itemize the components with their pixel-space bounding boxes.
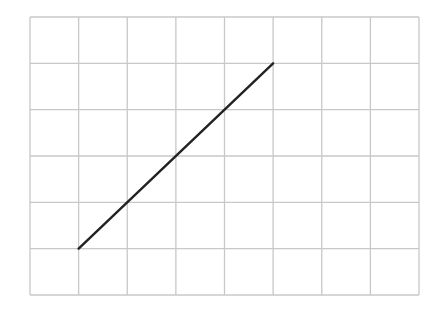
grid-lines [30, 17, 419, 295]
grid-diagram-svg [0, 0, 439, 309]
grid-diagram [0, 0, 439, 309]
